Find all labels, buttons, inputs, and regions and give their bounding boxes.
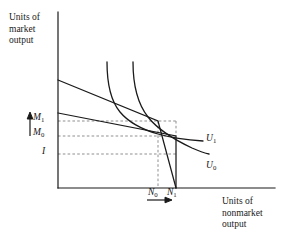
- y-tick-label-M0-sub: 0: [41, 131, 44, 138]
- x-tick-label-N1-sub: 1: [173, 191, 176, 198]
- axes-lines: [58, 12, 275, 188]
- curve-label-U1-sub: 1: [213, 137, 216, 144]
- indifference-curve-U0: [107, 62, 203, 141]
- curve-label-U1-text: U: [206, 133, 213, 143]
- curve-label-U1: U1: [206, 133, 216, 143]
- curve-label-U0: U0: [206, 160, 216, 170]
- y-tick-label-I-text: I: [42, 146, 45, 156]
- y-direction-arrow-head: [27, 112, 33, 119]
- x-tick-label-N0-sub: 0: [154, 191, 157, 198]
- curve-label-U0-sub: 0: [213, 164, 216, 171]
- x-tick-label-N0: N0: [148, 187, 158, 197]
- x-direction-arrow-head: [165, 197, 172, 203]
- guide-lines: [58, 121, 178, 188]
- y-tick-label-M1-sub: 1: [41, 116, 44, 123]
- y-tick-label-M0-text: M: [33, 127, 41, 137]
- y-tick-label-M1: M1: [33, 112, 44, 122]
- y-tick-label-I: I: [42, 146, 45, 156]
- curve-label-U0-text: U: [206, 160, 213, 170]
- y-tick-label-M1-text: M: [33, 112, 41, 122]
- x-tick-label-N1: N1: [167, 187, 177, 197]
- y-tick-label-M0: M0: [33, 127, 44, 137]
- indifference-curve-figure: Units of market output Units of nonmarke…: [0, 0, 286, 244]
- y-axis-title: Units of market output: [9, 12, 57, 47]
- x-axis-title: Units of nonmarket output: [222, 196, 284, 231]
